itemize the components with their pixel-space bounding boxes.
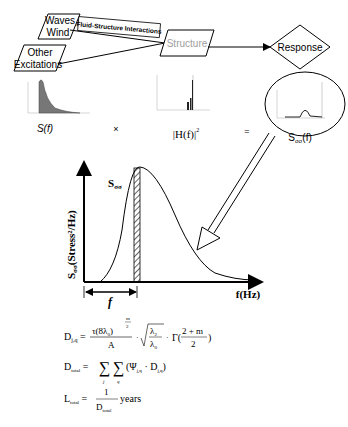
- y-axis-label: Sσσ(Stress²/Hz): [65, 210, 79, 279]
- svg-text:·: ·: [166, 333, 169, 342]
- svg-text:2: 2: [126, 324, 129, 329]
- hatched-frequency-band: [134, 168, 140, 282]
- svg-text:τ(8λ0): τ(8λ0): [92, 326, 113, 337]
- output-spectrum-ellipse: Sσσ(f): [265, 72, 345, 144]
- transfer-function-plot: |H(f)|2: [157, 75, 210, 141]
- input-spectrum-label: S(f): [37, 123, 53, 134]
- main-psd-chart: Sσσ Sσσ(Stress²/Hz) f f(Hz): [65, 162, 262, 309]
- f-marker-label: f: [108, 295, 113, 309]
- svg-text:∑: ∑: [113, 359, 124, 377]
- wind-label: Wind: [47, 27, 70, 38]
- total-damage-equation: Dtotal = ∑ j ∑ q (Ψj,q · Dj,q): [64, 359, 166, 384]
- svg-text:q: q: [117, 379, 120, 384]
- fatigue-life-equation: Ltotal = 1 Dtotal years: [64, 387, 141, 413]
- peak-label: Sσσ: [108, 177, 122, 191]
- waves-label: Waves: [45, 15, 75, 26]
- svg-text:Ltotal =: Ltotal =: [64, 393, 88, 405]
- equals-sign: =: [244, 126, 249, 136]
- svg-text:·: ·: [136, 333, 139, 342]
- psd-curve: [100, 167, 255, 282]
- svg-text:2: 2: [191, 339, 196, 349]
- svg-text:Dtotal =: Dtotal =: [64, 361, 89, 373]
- waves-wind-box: Waves Wind: [38, 14, 80, 39]
- svg-text:∑: ∑: [99, 359, 110, 377]
- fatigue-analysis-diagram: Waves Wind Other Excitations Fluid-Struc…: [0, 0, 348, 427]
- svg-text:Dtotal: Dtotal: [96, 402, 112, 413]
- svg-text:years: years: [120, 393, 141, 404]
- svg-text:1: 1: [104, 387, 109, 397]
- svg-text:λ2: λ2: [150, 326, 157, 337]
- other-label: Other: [27, 47, 53, 58]
- svg-text:λ0: λ0: [150, 339, 157, 350]
- svg-text:m: m: [126, 316, 130, 321]
- structure-box: Structure: [160, 30, 214, 56]
- svg-text:2 + m: 2 + m: [182, 326, 203, 336]
- svg-text:): ): [208, 332, 211, 344]
- transfer-function-label: |H(f)|2: [173, 127, 199, 141]
- input-spectrum-plot: S(f): [28, 80, 90, 134]
- svg-text:j: j: [102, 379, 105, 384]
- response-diamond: Response: [270, 25, 330, 69]
- svg-text:(Ψj,q · Dj,q): (Ψj,q · Dj,q): [126, 361, 166, 374]
- other-excitations-box: Other Excitations: [14, 45, 66, 71]
- damage-equation: Dj,q = τ(8λ0) m 2 A · λ2 λ0 · Γ( 2 + m 2…: [64, 316, 211, 350]
- excitations-label: Excitations: [14, 59, 62, 70]
- other-to-structure-line: [58, 43, 165, 64]
- response-label: Response: [277, 42, 322, 53]
- structure-label: Structure: [167, 38, 208, 49]
- multiply-sign: ×: [113, 124, 118, 134]
- svg-text:Γ(: Γ(: [172, 332, 182, 344]
- x-axis-label: f(Hz): [236, 288, 261, 301]
- svg-text:A: A: [108, 340, 115, 350]
- svg-text:Dj,q =: Dj,q =: [64, 331, 86, 343]
- fluid-structure-interactions-box: Fluid-Structure Interactions: [76, 16, 163, 37]
- zoom-arrow: [197, 133, 275, 250]
